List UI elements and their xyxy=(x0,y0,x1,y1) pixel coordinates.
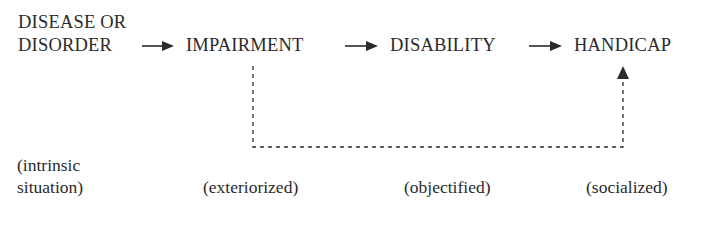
arrow-disability-to-handicap xyxy=(529,41,562,51)
arrow-disease-to-impairment xyxy=(142,41,174,51)
diagram-connectors xyxy=(0,0,706,225)
arrow-impairment-to-disability xyxy=(345,41,378,51)
dashed-arrow-impairment-to-handicap xyxy=(253,66,629,147)
